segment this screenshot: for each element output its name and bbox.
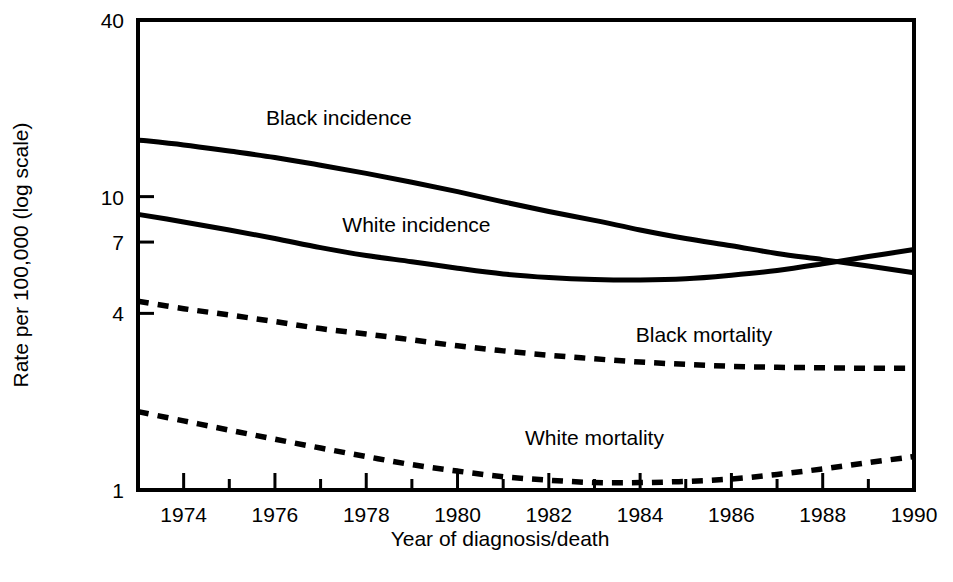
series-line-black-incidence <box>138 140 914 273</box>
x-axis-tick-label: 1976 <box>252 503 299 526</box>
y-axis-tick-label: 40 <box>101 9 124 32</box>
x-axis-tick-label: 1978 <box>343 503 390 526</box>
series-label-white-incidence: White incidence <box>342 213 490 236</box>
chart-container: 4010741 19741976197819801982198419861988… <box>0 0 953 582</box>
line-chart: 4010741 19741976197819801982198419861988… <box>0 0 953 582</box>
series-line-white-incidence <box>138 214 914 280</box>
x-axis-tick-label: 1980 <box>434 503 481 526</box>
series-label-black-mortality: Black mortality <box>636 323 773 346</box>
x-axis-tick-label: 1988 <box>799 503 846 526</box>
y-axis-tick-label: 1 <box>112 479 124 502</box>
y-axis-ticks: 4010741 <box>101 9 154 502</box>
x-axis-tick-label: 1974 <box>160 503 207 526</box>
x-axis-tick-label: 1986 <box>708 503 755 526</box>
x-axis-ticks: 197419761978198019821984198619881990 <box>160 473 937 526</box>
y-axis-title: Rate per 100,000 (log scale) <box>9 123 32 388</box>
x-axis-tick-label: 1984 <box>617 503 664 526</box>
series-line-black-mortality <box>138 301 914 368</box>
x-axis-tick-label: 1990 <box>891 503 938 526</box>
x-axis-tick-label: 1982 <box>525 503 572 526</box>
y-axis-tick-label: 7 <box>112 231 124 254</box>
x-axis-title: Year of diagnosis/death <box>391 527 610 550</box>
series-label-white-mortality: White mortality <box>525 426 664 449</box>
y-axis-tick-label: 4 <box>112 302 124 325</box>
y-axis-tick-label: 10 <box>101 186 124 209</box>
series-label-black-incidence: Black incidence <box>266 106 412 129</box>
